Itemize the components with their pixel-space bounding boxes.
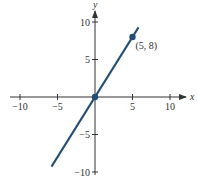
point-label: (5, 8) [136, 40, 158, 52]
y-tick-label: −5 [79, 129, 90, 140]
data-point [92, 94, 98, 100]
x-tick-label: 10 [165, 101, 175, 112]
y-axis-label: y [92, 0, 98, 10]
axes: xy−10−5510105−5−10 [10, 0, 195, 178]
y-tick-label: 5 [85, 54, 90, 65]
x-tick-label: −10 [12, 101, 28, 112]
y-tick-label: 10 [80, 17, 90, 28]
chart-plot: xy−10−5510105−5−10 (5, 8) [0, 0, 197, 180]
x-tick-label: −5 [52, 101, 63, 112]
y-tick-label: −10 [74, 167, 90, 178]
x-axis-label: x [189, 91, 195, 102]
x-tick-label: 5 [130, 101, 135, 112]
